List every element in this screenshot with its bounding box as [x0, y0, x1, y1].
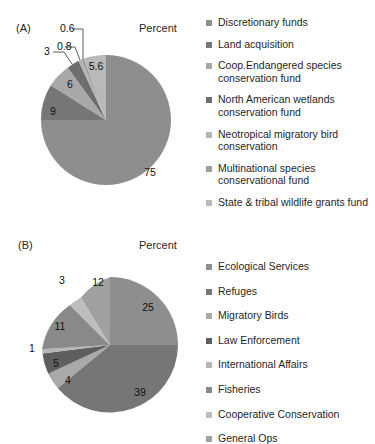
- panel-b-value-25: 25: [142, 301, 154, 313]
- panel-a-value-75: 75: [144, 166, 156, 178]
- legend-label: Migratory Birds: [218, 309, 289, 322]
- legend-label: Land acquisition: [218, 38, 294, 51]
- legend-label: Neotropical migratory bird conservation: [218, 128, 368, 153]
- legend-marker-icon: [206, 436, 212, 442]
- legend-item-state-tribal-wildlife-grants[interactable]: State & tribal wildlife grants fund: [206, 196, 368, 209]
- panel-b-value-4: 4: [65, 374, 71, 386]
- panel-a-value-6: 6: [67, 78, 73, 90]
- legend-item-north-american-wetlands[interactable]: North American wetlands conservation fun…: [206, 93, 368, 118]
- panel-a-value-3: 3: [44, 45, 50, 57]
- legend-label: Discretionary funds: [218, 16, 308, 29]
- panel-a-pie: 75 9 6 3 0.8 0.6 5.6: [20, 20, 200, 210]
- legend-marker-icon: [206, 132, 212, 138]
- panel-b-value-12: 12: [92, 276, 104, 288]
- legend-label: Refuges: [218, 285, 257, 298]
- panel-b-legend: Ecological Services Refuges Migratory Bi…: [206, 260, 368, 444]
- panel-a-leader-3: [53, 52, 72, 64]
- legend-label: North American wetlands conservation fun…: [218, 93, 368, 118]
- legend-marker-icon: [206, 289, 212, 295]
- legend-item-cooperative-conservation[interactable]: Cooperative Conservation: [206, 408, 368, 421]
- legend-item-migratory-birds[interactable]: Migratory Birds: [206, 309, 368, 322]
- legend-marker-icon: [206, 387, 212, 393]
- legend-label: International Affairs: [218, 358, 308, 371]
- legend-marker-icon: [206, 97, 212, 103]
- legend-label: Law Enforcement: [218, 334, 300, 347]
- panel-a-value-5-6: 5.6: [89, 60, 104, 72]
- legend-item-neotropical-migratory-bird[interactable]: Neotropical migratory bird conservation: [206, 128, 368, 153]
- panel-b-pie-svg: 25 39 4 5 1 11 3 12: [20, 260, 200, 420]
- legend-marker-icon: [206, 42, 212, 48]
- panel-b-label: (B): [18, 239, 33, 251]
- legend-marker-icon: [206, 63, 212, 69]
- panel-b-value-11: 11: [55, 320, 66, 332]
- legend-marker-icon: [206, 313, 212, 319]
- panel-b-value-39: 39: [134, 386, 146, 398]
- legend-marker-icon: [206, 166, 212, 172]
- legend-marker-icon: [206, 362, 212, 368]
- legend-marker-icon: [206, 20, 212, 26]
- panel-b: (B) Percent: [0, 222, 375, 444]
- panel-b-value-3: 3: [59, 274, 65, 286]
- legend-item-ecological-services[interactable]: Ecological Services: [206, 260, 368, 273]
- legend-label: State & tribal wildlife grants fund: [218, 196, 368, 209]
- legend-marker-icon: [206, 200, 212, 206]
- legend-marker-icon: [206, 412, 212, 418]
- legend-label: Coop.Endangered species conservation fun…: [218, 59, 368, 84]
- legend-label: Fisheries: [218, 383, 261, 396]
- panel-a-value-0-8: 0.8: [57, 40, 72, 52]
- legend-item-land-acquisition[interactable]: Land acquisition: [206, 38, 368, 51]
- panel-b-percent-label: Percent: [139, 239, 177, 251]
- panel-b-pie: 25 39 4 5 1 11 3 12: [20, 260, 200, 420]
- figure-root: (A) Percent: [0, 0, 375, 444]
- panel-b-value-1: 1: [29, 342, 35, 354]
- panel-a-pie-svg: 75 9 6 3 0.8 0.6 5.6: [20, 20, 200, 210]
- panel-a: (A) Percent: [0, 0, 375, 222]
- panel-a-value-0-6: 0.6: [60, 22, 75, 34]
- legend-item-law-enforcement[interactable]: Law Enforcement: [206, 334, 368, 347]
- legend-marker-icon: [206, 264, 212, 270]
- legend-item-general-ops[interactable]: General Ops: [206, 432, 368, 444]
- legend-label: Cooperative Conservation: [218, 408, 339, 421]
- panel-a-value-9: 9: [50, 105, 56, 117]
- legend-item-fisheries[interactable]: Fisheries: [206, 383, 368, 396]
- legend-marker-icon: [206, 338, 212, 344]
- legend-label: Ecological Services: [218, 260, 309, 273]
- panel-a-legend: Discretionary funds Land acquisition Coo…: [206, 16, 368, 209]
- legend-item-discretionary-funds[interactable]: Discretionary funds: [206, 16, 368, 29]
- panel-b-value-5: 5: [53, 357, 59, 369]
- legend-item-multinational-species[interactable]: Multinational species conservational fun…: [206, 162, 368, 187]
- legend-item-international-affairs[interactable]: International Affairs: [206, 358, 368, 371]
- legend-item-coop-endangered-species[interactable]: Coop.Endangered species conservation fun…: [206, 59, 368, 84]
- legend-item-refuges[interactable]: Refuges: [206, 285, 368, 298]
- legend-label: General Ops: [218, 432, 278, 444]
- legend-label: Multinational species conservational fun…: [218, 162, 368, 187]
